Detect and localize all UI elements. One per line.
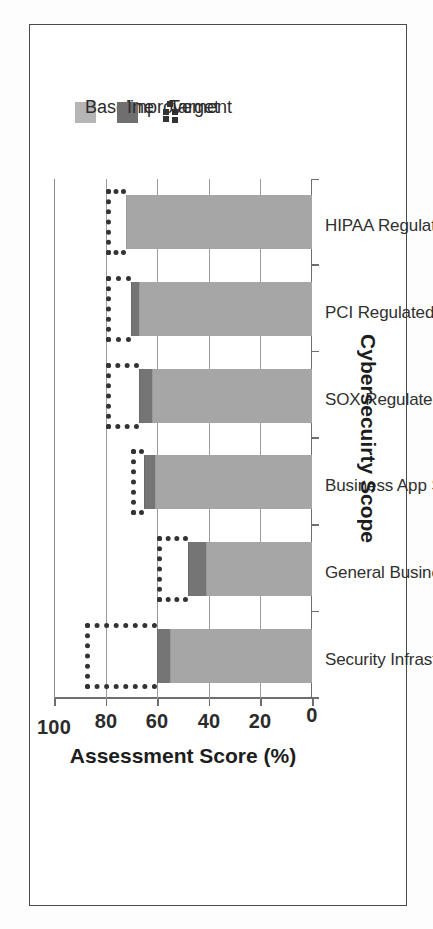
bar-segment-improvement[interactable]: [139, 369, 152, 423]
value-axis-line: [54, 698, 312, 700]
legend-item-improvement: Improvement: [114, 43, 140, 123]
bar-group[interactable]: [54, 195, 312, 249]
chart-rotated-stage: Assessment Score (%) 020406080100Securit…: [38, 35, 398, 895]
bar-group[interactable]: [54, 369, 312, 423]
category-axis-tick: [312, 524, 319, 526]
bar-group[interactable]: [54, 629, 312, 683]
value-axis-tick-label: 60: [146, 710, 169, 733]
bar-segment-baseline[interactable]: [139, 282, 312, 336]
bar-segment-baseline[interactable]: [152, 369, 312, 423]
value-axis-title: Assessment Score (%): [54, 743, 312, 769]
value-axis-tick-label: 40: [197, 710, 220, 733]
value-axis-tick: [209, 699, 211, 706]
target-marker[interactable]: [157, 536, 188, 602]
value-axis-tick: [157, 699, 159, 706]
target-marker[interactable]: [106, 363, 140, 429]
category-axis-tick: [312, 438, 319, 440]
category-axis-title: Cybersecuirty Scope: [356, 179, 380, 699]
category-axis-line: [311, 179, 313, 699]
target-marker[interactable]: [85, 623, 157, 689]
legend-item-target: Target: [156, 43, 182, 123]
value-axis-tick: [106, 699, 108, 706]
value-axis-tick: [54, 699, 56, 706]
bar-group[interactable]: [54, 542, 312, 596]
value-axis-tick-label: 80: [94, 710, 117, 733]
bar-group[interactable]: [54, 282, 312, 336]
bar-segment-improvement[interactable]: [131, 282, 139, 336]
gridline: [54, 179, 55, 699]
category-axis-tick: [312, 698, 319, 700]
chart-canvas: Assessment Score (%) 020406080100Securit…: [38, 35, 398, 895]
bar-segment-baseline[interactable]: [155, 455, 312, 509]
target-marker[interactable]: [106, 189, 127, 255]
gridline: [157, 179, 158, 699]
category-axis-tick: [312, 351, 319, 353]
value-axis-tick-label: 100: [37, 715, 71, 738]
value-axis-title-text: Assessment Score (%): [70, 744, 296, 768]
plot-area: 020406080100Security InfrastructureGener…: [54, 179, 312, 699]
gridline: [260, 179, 261, 699]
value-axis-tick: [260, 699, 262, 706]
category-axis-title-text: Cybersecuirty Scope: [356, 335, 380, 544]
bar-segment-improvement[interactable]: [144, 455, 154, 509]
bar-segment-improvement[interactable]: [157, 629, 170, 683]
category-axis-tick: [312, 264, 319, 266]
figure-border: Assessment Score (%) 020406080100Securit…: [29, 24, 407, 906]
legend-item-baseline: Baseline: [72, 43, 98, 123]
bar-segment-baseline[interactable]: [126, 195, 312, 249]
value-axis-tick-label: 0: [306, 704, 317, 727]
bar-segment-improvement[interactable]: [188, 542, 206, 596]
legend-label-target: Target: [169, 97, 219, 118]
category-axis-tick: [312, 179, 319, 181]
scanned-page: Assessment Score (%) 020406080100Securit…: [0, 0, 433, 929]
target-marker[interactable]: [106, 276, 132, 342]
chart-legend: Baseline Improvement Target: [72, 43, 198, 123]
bar-segment-baseline[interactable]: [170, 629, 312, 683]
gridline: [106, 179, 107, 699]
gridline: [209, 179, 210, 699]
bar-segment-baseline[interactable]: [206, 542, 312, 596]
target-marker[interactable]: [131, 449, 144, 515]
bar-group[interactable]: [54, 455, 312, 509]
category-axis-tick: [312, 611, 319, 613]
value-axis-tick-label: 20: [249, 710, 272, 733]
